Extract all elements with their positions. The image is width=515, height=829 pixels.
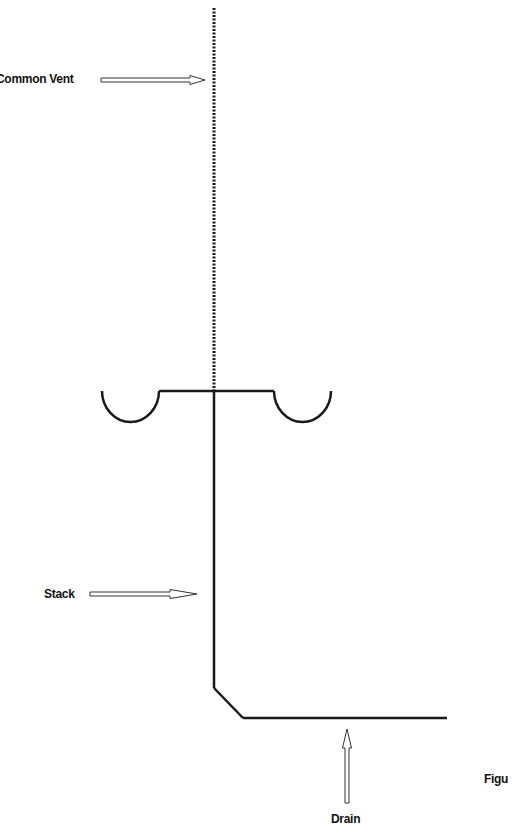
drain-bend [214,688,243,718]
figure-caption: Figu [484,772,508,786]
drain-label: Drain [331,812,360,826]
left-basin-trap [102,391,159,422]
drain-arrow-icon [343,729,352,803]
right-basin-trap [274,391,331,422]
common-vent-label: Common Vent [0,72,73,86]
common-vent-arrow-icon [101,76,205,85]
plumbing-diagram [0,0,515,829]
stack-arrow-icon [90,590,197,599]
stack-label: Stack [44,587,75,601]
